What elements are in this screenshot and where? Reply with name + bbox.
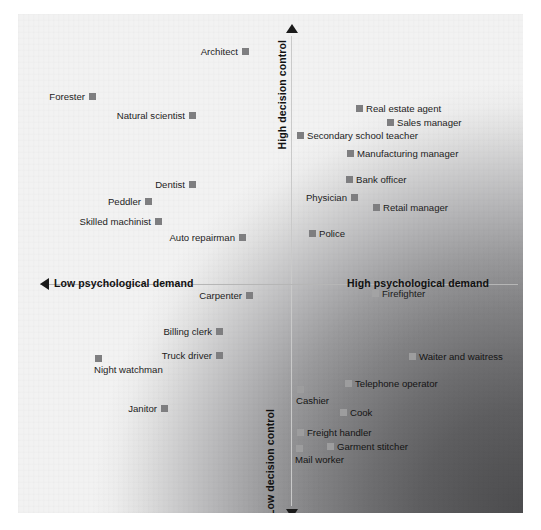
- scatter-marker: [373, 204, 380, 211]
- scatter-point-label: Retail manager: [383, 203, 448, 213]
- scatter-marker: [216, 352, 223, 359]
- scatter-marker: [242, 48, 249, 55]
- axis-arrow-down-icon: [286, 509, 298, 513]
- scatter-point-label: Dentist: [155, 180, 185, 190]
- axis-arrow-left-icon: [40, 278, 49, 290]
- scatter-marker: [351, 194, 358, 201]
- scatter-point-label: Cashier: [296, 396, 329, 406]
- scatter-marker: [327, 443, 334, 450]
- plot-panel: High decision control Low decision contr…: [18, 14, 523, 513]
- scatter-point-label: Truck driver: [162, 351, 212, 361]
- scatter-marker: [95, 355, 102, 362]
- scatter-marker: [347, 150, 354, 157]
- scatter-marker: [145, 198, 152, 205]
- scatter-marker: [189, 181, 196, 188]
- scatter-marker: [296, 445, 303, 452]
- scatter-marker: [239, 234, 246, 241]
- scatter-marker: [189, 112, 196, 119]
- axis-label-high-decision-control: High decision control: [276, 40, 288, 149]
- scatter-marker: [297, 132, 304, 139]
- figure-root: High decision control Low decision contr…: [0, 0, 541, 530]
- scatter-marker: [346, 176, 353, 183]
- scatter-marker: [387, 119, 394, 126]
- scatter-marker: [155, 218, 162, 225]
- scatter-marker: [216, 328, 223, 335]
- scatter-point-label: Sales manager: [397, 118, 462, 128]
- scatter-point-label: Secondary school teacher: [307, 131, 418, 141]
- axis-arrow-up-icon: [286, 24, 298, 33]
- scatter-point-label: Freight handler: [307, 428, 372, 438]
- scatter-point-label: Telephone operator: [355, 379, 438, 389]
- scatter-marker: [246, 292, 253, 299]
- scatter-marker: [297, 429, 304, 436]
- scatter-point-label: Mail worker: [295, 455, 344, 465]
- scatter-point-label: Physician: [306, 193, 347, 203]
- scatter-point-label: Manufacturing manager: [357, 149, 458, 159]
- scatter-point-label: Garment stitcher: [337, 442, 408, 452]
- scatter-marker: [340, 409, 347, 416]
- scatter-marker: [345, 380, 352, 387]
- scatter-point-label: Architect: [201, 47, 238, 57]
- scatter-point-label: Waiter and waitress: [419, 352, 503, 362]
- scatter-point-label: Janitor: [128, 404, 157, 414]
- vertical-axis-line: [291, 36, 292, 506]
- scatter-marker: [297, 386, 304, 393]
- scatter-point-label: Carpenter: [199, 291, 242, 301]
- scatter-marker: [372, 290, 379, 297]
- scatter-point-label: Police: [319, 229, 345, 239]
- scatter-marker: [309, 230, 316, 237]
- axis-label-low-decision-control: Low decision control: [264, 409, 276, 513]
- scatter-point-label: Cook: [350, 408, 372, 418]
- axis-label-low-psychological-demand: Low psychological demand: [54, 277, 194, 289]
- scatter-marker: [161, 405, 168, 412]
- scatter-marker: [89, 93, 96, 100]
- scatter-marker: [409, 353, 416, 360]
- scatter-point-label: Natural scientist: [117, 111, 185, 121]
- scatter-marker: [356, 105, 363, 112]
- scatter-point-label: Billing clerk: [163, 327, 212, 337]
- scatter-point-label: Firefighter: [382, 289, 425, 299]
- scatter-point-label: Bank officer: [356, 175, 406, 185]
- scatter-point-label: Night watchman: [94, 365, 163, 375]
- scatter-point-label: Skilled machinist: [80, 217, 151, 227]
- scatter-point-label: Forester: [49, 92, 85, 102]
- scatter-point-label: Peddler: [108, 197, 141, 207]
- scatter-point-label: Real estate agent: [366, 104, 441, 114]
- scatter-point-label: Auto repairman: [169, 233, 235, 243]
